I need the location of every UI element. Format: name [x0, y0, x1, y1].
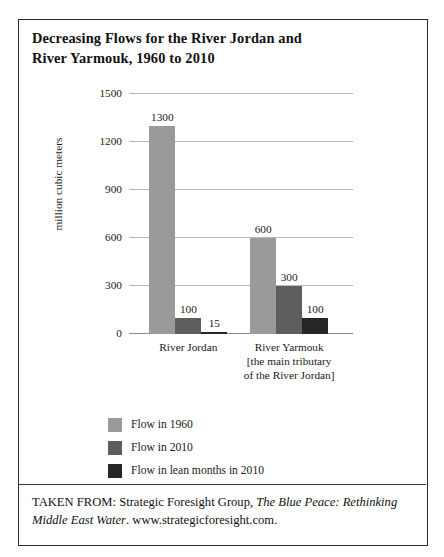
bar-river-jordan-flow-in-1960: 1300	[149, 126, 175, 334]
bar-river-jordan-flow-in-2010: 100	[175, 318, 201, 334]
bar-value-label: 600	[255, 223, 272, 235]
figure-title: Decreasing Flows for the River Jordan an…	[32, 29, 402, 69]
x-axis-category-line: River Jordan	[159, 340, 217, 354]
bar-value-label: 100	[307, 303, 324, 315]
figure-frame: Decreasing Flows for the River Jordan an…	[18, 19, 428, 546]
legend-item-0: Flow in 1960	[108, 413, 264, 436]
source-prefix: TAKEN FROM: Strategic Foresight Group,	[32, 495, 256, 509]
x-axis-category-line: [the main tributary	[244, 354, 335, 368]
legend-label: Flow in 1960	[131, 418, 193, 431]
bar-value-label: 300	[281, 271, 298, 283]
bar-value-label: 15	[209, 317, 220, 329]
legend-item-2: Flow in lean months in 2010	[108, 459, 264, 482]
chart-legend: Flow in 1960Flow in 2010Flow in lean mon…	[108, 413, 264, 482]
x-axis-category-line: River Yarmouk	[244, 340, 335, 354]
gridline-1500: 1500	[129, 93, 353, 94]
bar-river-jordan-flow-in-lean-months-in-2010: 15	[201, 332, 227, 334]
source-title-part-1: The Blue Peace:	[256, 495, 339, 509]
figure-title-line-1: Decreasing Flows for the River Jordan an…	[32, 29, 402, 49]
bar-value-label: 100	[180, 303, 197, 315]
x-axis-category-line: of the River Jordan]	[244, 368, 335, 382]
bar-river-yarmouk-flow-in-2010: 300	[276, 286, 302, 334]
x-axis-category-label: River Jordan	[159, 340, 217, 354]
y-tick-label-1200: 1200	[99, 135, 122, 147]
bar-chart: million cubic meters 0300600900120015001…	[19, 82, 427, 367]
bar-river-yarmouk-flow-in-lean-months-in-2010: 100	[302, 318, 328, 334]
y-tick-label-0: 0	[116, 327, 122, 339]
bar-river-yarmouk-flow-in-1960: 600	[250, 238, 276, 334]
legend-item-1: Flow in 2010	[108, 436, 264, 459]
plot-area: 030060090012001500130010015River Jordan6…	[129, 94, 353, 334]
caption-divider	[19, 484, 426, 485]
legend-swatch-icon	[108, 464, 122, 478]
source-caption: TAKEN FROM: Strategic Foresight Group, T…	[32, 494, 414, 530]
y-tick-label-1500: 1500	[99, 87, 122, 99]
y-tick-label-600: 600	[105, 231, 122, 243]
y-tick-label-900: 900	[105, 183, 122, 195]
legend-label: Flow in 2010	[131, 441, 193, 454]
x-axis-category-label: River Yarmouk[the main tributaryof the R…	[244, 340, 335, 383]
y-axis-title: million cubic meters	[52, 119, 64, 249]
legend-label: Flow in lean months in 2010	[131, 464, 264, 477]
y-tick-label-300: 300	[105, 279, 122, 291]
source-suffix: . www.strategicforesight.com.	[126, 513, 277, 527]
bar-value-label: 1300	[151, 111, 174, 123]
figure-title-line-2: River Yarmouk, 1960 to 2010	[32, 49, 402, 69]
legend-swatch-icon	[108, 441, 122, 455]
legend-swatch-icon	[108, 418, 122, 432]
